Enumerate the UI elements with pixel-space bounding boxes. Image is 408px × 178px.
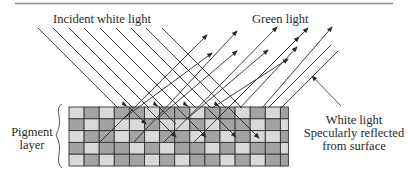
pigment-cell	[190, 142, 205, 154]
pigment-cell	[129, 131, 144, 143]
specular-reflection-label: White light Specularly reflected from su…	[300, 114, 408, 153]
pigment-cell	[84, 154, 99, 166]
callout-arrow	[312, 76, 341, 106]
pigment-cell	[220, 154, 235, 166]
pigment-cell	[114, 131, 129, 143]
pigment-cell	[205, 154, 220, 166]
light-ray	[38, 28, 118, 108]
pigment-cell	[114, 142, 129, 154]
pigment-cell	[220, 142, 235, 154]
pigment-cell	[69, 131, 84, 143]
pigment-cell	[235, 131, 250, 143]
incident-light-label: Incident white light	[53, 13, 151, 26]
pigment-cell	[280, 142, 288, 154]
pigment-cell	[114, 107, 129, 119]
pigment-cell	[265, 131, 280, 143]
pigment-cell	[235, 107, 250, 119]
pigment-cell	[99, 142, 114, 154]
pigment-cell	[220, 131, 235, 143]
pigment-cell	[175, 142, 190, 154]
pigment-cell	[69, 154, 84, 166]
pigment-cell	[280, 119, 288, 131]
arrowhead-icon	[183, 101, 189, 107]
incident-rays	[38, 28, 242, 108]
pigment-cell	[250, 107, 265, 119]
specular-rays	[268, 45, 338, 108]
pigment-cell	[145, 131, 160, 143]
specular-callout-line	[312, 76, 341, 106]
light-ray	[84, 28, 164, 108]
pigment-cell	[84, 131, 99, 143]
green-light-label: Green light	[252, 13, 309, 26]
pigment-cell	[280, 131, 288, 143]
pigment-cell	[280, 154, 288, 166]
pigment-cell	[250, 142, 265, 154]
light-ray	[100, 28, 180, 108]
pigment-cell	[69, 119, 84, 131]
pigment-cell	[235, 119, 250, 131]
light-ray	[53, 28, 133, 108]
light-ray	[268, 45, 331, 108]
light-ray	[281, 51, 338, 108]
pigment-cell	[99, 154, 114, 166]
light-ray	[69, 28, 149, 108]
pigment-cell	[175, 154, 190, 166]
pigment-grid	[69, 107, 288, 166]
pigment-cell	[250, 119, 265, 131]
pigment-cell	[265, 119, 280, 131]
pigment-cell	[160, 131, 175, 143]
pigment-cell	[69, 142, 84, 154]
pigment-cell	[205, 131, 220, 143]
pigment-cell	[265, 154, 280, 166]
pigment-cell	[265, 142, 280, 154]
pigment-cell	[114, 154, 129, 166]
pigment-cell	[129, 154, 144, 166]
pigment-cell	[205, 142, 220, 154]
pigment-cell	[69, 107, 84, 119]
pigment-cell	[129, 142, 144, 154]
pigment-cell	[250, 154, 265, 166]
pigment-cell	[84, 107, 99, 119]
light-ray	[131, 28, 211, 108]
pigment-cell	[190, 131, 205, 143]
pigment-cell	[145, 142, 160, 154]
pigment-layer-label: Pigment layer	[5, 126, 59, 152]
pigment-cell	[160, 107, 175, 119]
pigment-cell	[175, 131, 190, 143]
pigment-cell	[84, 119, 99, 131]
pigment-cell	[235, 142, 250, 154]
pigment-cell	[84, 142, 99, 154]
pigment-cell	[145, 154, 160, 166]
pigment-cell	[235, 154, 250, 166]
pigment-label-line-2: layer	[5, 139, 59, 152]
pigment-cell	[99, 119, 114, 131]
pigment-cell	[99, 107, 114, 119]
pigment-cell	[160, 154, 175, 166]
pigment-cell	[160, 142, 175, 154]
specular-label-line-3: from surface	[300, 140, 408, 153]
pigment-cell	[265, 107, 280, 119]
light-ray	[212, 59, 288, 108]
pigment-cell	[280, 107, 288, 119]
pigment-cell	[190, 154, 205, 166]
